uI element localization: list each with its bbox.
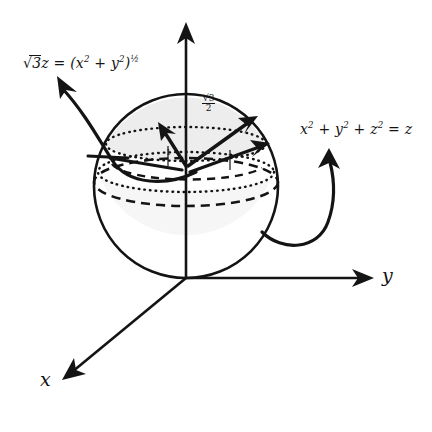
x-axis-arrowhead	[62, 358, 86, 380]
tick-label-two: 2	[228, 152, 233, 161]
cone-equation-label: √3z = (x2 + y2)½	[22, 54, 139, 71]
radius-fraction-label: √3 2	[201, 94, 216, 114]
equals-sign: =	[54, 55, 66, 71]
tick-label-one: 1	[166, 148, 171, 157]
fraction-denominator: 2	[201, 104, 216, 113]
sphere-equation-label: x2 + y2 + z2 = z	[300, 120, 412, 137]
x-axis-line	[72, 278, 186, 372]
fraction-numerator: √3	[201, 94, 216, 103]
sphere-annotation-arrowhead	[318, 148, 340, 169]
x-axis-label: x	[40, 368, 51, 390]
y-axis-label: y	[382, 264, 393, 286]
figure-canvas: √3z = (x2 + y2)½ x2 + y2 + z2 = z √3 2 1…	[0, 0, 432, 432]
sqrt-symbol: √3	[22, 55, 41, 71]
sphere-annotation-arrow	[262, 162, 334, 245]
